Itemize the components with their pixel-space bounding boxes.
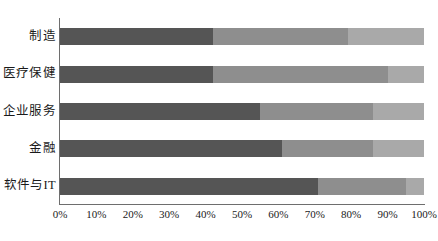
stacked-bar[interactable]	[60, 103, 424, 120]
stacked-bar[interactable]	[60, 140, 424, 157]
bar-segment[interactable]	[60, 178, 318, 195]
stacked-bar[interactable]	[60, 178, 424, 195]
plot-area	[60, 18, 424, 205]
stacked-bar[interactable]	[60, 66, 424, 83]
x-axis-tick-label: 90%	[378, 209, 398, 220]
x-axis-tick-label: 30%	[159, 209, 179, 220]
bar-segment[interactable]	[60, 140, 282, 157]
x-axis-tick-label: 100%	[411, 209, 437, 220]
bar-segment[interactable]	[60, 103, 260, 120]
y-axis-label: 医疗保健	[3, 67, 56, 80]
y-axis-label: 软件与IT	[4, 179, 56, 192]
bar-segment[interactable]	[348, 28, 424, 45]
bar-segment[interactable]	[60, 66, 213, 83]
bar-row	[60, 93, 424, 130]
y-axis-label: 金融	[29, 142, 56, 155]
x-axis-tick-label: 40%	[196, 209, 216, 220]
x-axis-tick-label: 20%	[123, 209, 143, 220]
bar-row	[60, 130, 424, 167]
x-axis-tick-label: 10%	[86, 209, 106, 220]
bar-row	[60, 18, 424, 55]
bar-segment[interactable]	[406, 178, 424, 195]
x-axis-tick-label: 60%	[268, 209, 288, 220]
x-axis-tick-label: 70%	[305, 209, 325, 220]
bar-row	[60, 168, 424, 205]
bar-segment[interactable]	[213, 66, 388, 83]
bar-segment[interactable]	[282, 140, 373, 157]
bar-segment[interactable]	[260, 103, 373, 120]
bar-segment[interactable]	[213, 28, 348, 45]
bar-segment[interactable]	[373, 103, 424, 120]
bar-row	[60, 55, 424, 92]
x-axis-tick-label: 50%	[232, 209, 252, 220]
x-axis-tick-label: 80%	[341, 209, 361, 220]
y-axis-label: 企业服务	[3, 105, 56, 118]
x-axis-tick-label: 0%	[53, 209, 68, 220]
bar-segment[interactable]	[388, 66, 424, 83]
y-axis-label: 制造	[29, 30, 56, 43]
bar-segment[interactable]	[60, 28, 213, 45]
bar-segment[interactable]	[373, 140, 424, 157]
stacked-bar[interactable]	[60, 28, 424, 45]
stacked-bar-chart: 制造医疗保健企业服务金融软件与IT 0%10%20%30%40%50%60%70…	[0, 0, 438, 241]
bar-segment[interactable]	[318, 178, 405, 195]
